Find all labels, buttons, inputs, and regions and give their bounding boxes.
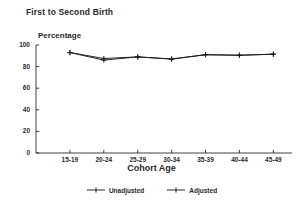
data-point-marker xyxy=(169,56,174,61)
x-tick-label: 15-19 xyxy=(53,156,87,163)
x-tick-label: 30-34 xyxy=(155,156,189,163)
data-point-marker xyxy=(237,53,242,58)
data-point-marker xyxy=(271,52,276,57)
data-point-marker xyxy=(203,52,208,57)
x-tick-label: 20-24 xyxy=(87,156,121,163)
y-tick-label: 100 xyxy=(8,41,30,48)
x-axis-ticks xyxy=(70,150,273,153)
legend-marker-dash-plus xyxy=(86,186,106,194)
legend-label: Adjusted xyxy=(189,187,217,194)
data-series-group xyxy=(67,50,276,63)
y-tick-label: 20 xyxy=(8,127,30,134)
legend-label: Unadjusted xyxy=(109,187,144,194)
y-axis-ticks xyxy=(36,45,39,153)
x-tick-label: 45-49 xyxy=(256,156,290,163)
x-tick-label: 40-44 xyxy=(222,156,256,163)
y-tick-label: 0 xyxy=(8,149,30,156)
x-tick-label: 25-29 xyxy=(121,156,155,163)
chart-legend: UnadjustedAdjusted xyxy=(0,186,303,194)
data-point-marker xyxy=(135,54,140,59)
chart-container: First to Second Birth Percentage 0204060… xyxy=(0,0,303,211)
y-tick-label: 60 xyxy=(8,84,30,91)
plot-area xyxy=(0,0,303,211)
x-axis-label: Cohort Age xyxy=(0,163,303,173)
x-tick-label: 35-39 xyxy=(189,156,223,163)
y-tick-label: 40 xyxy=(8,106,30,113)
legend-item-adjusted[interactable]: Adjusted xyxy=(166,186,217,194)
legend-item-unadjusted[interactable]: Unadjusted xyxy=(86,186,144,194)
axis-lines xyxy=(36,45,292,153)
y-tick-label: 80 xyxy=(8,63,30,70)
data-point-marker xyxy=(67,50,72,55)
legend-marker-plus-dash xyxy=(166,186,186,194)
